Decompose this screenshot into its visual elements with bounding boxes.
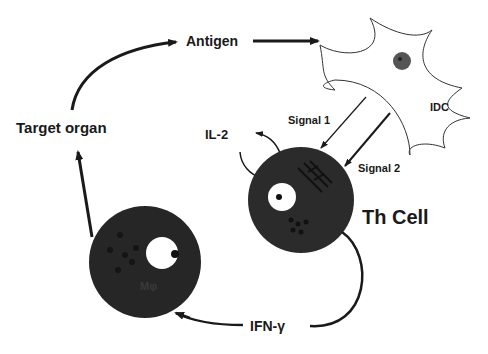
label-target-organ: Target organ <box>16 119 107 136</box>
arrow-target-to-antigen <box>72 42 176 110</box>
arrow-il2-out <box>256 133 280 153</box>
label-macrophage: Mφ <box>140 280 157 292</box>
label-ifn-gamma: IFN-γ <box>250 318 285 334</box>
arrow-signal2 <box>345 113 390 166</box>
arrow-ifn-gamma <box>176 232 362 326</box>
th-cell <box>248 147 354 253</box>
label-il2: IL-2 <box>205 127 228 142</box>
immune-cycle-diagram: Antigen Target organ IDC Signal 1 Signal… <box>0 0 488 354</box>
label-signal2: Signal 2 <box>358 162 400 174</box>
macrophage-cell <box>89 206 201 318</box>
label-antigen: Antigen <box>186 33 238 49</box>
arrow-macrophage-to-target <box>78 152 92 237</box>
label-idc: IDC <box>430 101 449 113</box>
label-signal1: Signal 1 <box>288 114 330 126</box>
idc-cell-outline <box>320 18 470 155</box>
idc-nucleus <box>393 52 411 70</box>
label-th-cell: Th Cell <box>362 206 429 228</box>
